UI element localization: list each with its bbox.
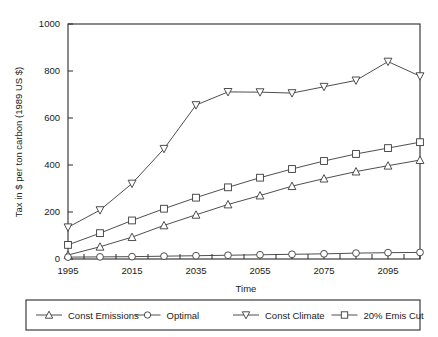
y-tick-label: 600 <box>44 112 60 123</box>
legend-label: 20% Emis Cut <box>364 310 425 321</box>
data-point-marker-circle <box>257 251 264 258</box>
x-tick-label: 2095 <box>377 265 398 276</box>
data-point-marker-square-legend <box>341 312 347 318</box>
data-point-marker-circle <box>289 251 296 258</box>
data-point-marker-circle <box>161 253 168 260</box>
data-point-marker-circle <box>97 253 104 260</box>
y-tick-label: 200 <box>44 206 60 217</box>
data-point-marker-circle-legend <box>144 312 150 318</box>
data-point-marker-circle <box>385 249 392 256</box>
data-point-marker-circle <box>225 252 232 259</box>
x-tick-label: 2035 <box>185 265 206 276</box>
data-point-marker-square <box>97 230 104 237</box>
data-point-marker-square <box>385 145 392 152</box>
data-point-marker-circle <box>129 253 136 260</box>
y-tick-label: 800 <box>44 65 60 76</box>
data-point-marker-circle <box>193 252 200 259</box>
y-tick-label: 1000 <box>39 18 60 29</box>
data-point-marker-square <box>353 151 360 158</box>
data-point-marker-square <box>417 139 424 146</box>
y-tick-label: 400 <box>44 159 60 170</box>
data-point-marker-square <box>257 174 264 181</box>
data-point-marker-square <box>65 242 72 249</box>
x-tick-label: 2015 <box>121 265 142 276</box>
tax-per-ton-carbon-line-chart: 02004006008001000 1995201520352055207520… <box>0 0 438 337</box>
x-axis-title: Time <box>236 283 257 294</box>
data-point-marker-square <box>193 194 200 201</box>
data-point-marker-circle <box>417 249 424 256</box>
x-tick-label: 2055 <box>249 265 270 276</box>
data-point-marker-square <box>289 166 296 173</box>
legend-label: Optimal <box>167 310 200 321</box>
data-point-marker-circle <box>65 254 72 261</box>
data-point-marker-circle <box>321 250 328 257</box>
data-point-marker-square <box>321 158 328 165</box>
chart-legend: Const EmissionsOptimalConst Climate20% E… <box>26 300 424 330</box>
data-point-marker-square <box>225 184 232 191</box>
x-tick-label: 1995 <box>57 265 78 276</box>
legend-label: Const Emissions <box>68 310 139 321</box>
data-point-marker-circle <box>353 250 360 257</box>
data-point-marker-square <box>129 217 136 224</box>
x-tick-label: 2075 <box>313 265 334 276</box>
legend-label: Const Climate <box>265 310 325 321</box>
y-axis-title: Tax in $ per ton carbon (1989 US $) <box>13 67 24 218</box>
data-point-marker-square <box>161 205 168 212</box>
y-tick-label: 0 <box>55 253 60 264</box>
chart-figure: 02004006008001000 1995201520352055207520… <box>0 0 438 337</box>
